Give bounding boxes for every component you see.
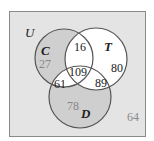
region-c-t-d: 109: [69, 65, 87, 79]
region-c-d-only: 61: [54, 77, 66, 91]
region-c-t-only: 16: [74, 40, 86, 54]
venn-diagram: U C T D 27 16 80 109 61 89 78 64: [0, 0, 154, 141]
set-d-label: D: [80, 106, 91, 121]
region-outside: 64: [127, 110, 139, 124]
region-t-only: 80: [111, 61, 123, 75]
region-d-only: 78: [67, 99, 79, 113]
set-c-label: C: [41, 43, 50, 58]
universe-label: U: [25, 25, 36, 40]
set-t-label: T: [104, 39, 113, 54]
region-t-d-only: 89: [95, 76, 107, 90]
region-c-only: 27: [39, 57, 51, 71]
